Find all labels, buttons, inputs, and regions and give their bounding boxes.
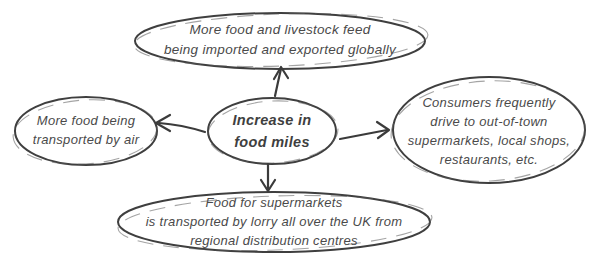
node-text-line: supermarkets, local shops, bbox=[408, 131, 570, 150]
node-text-line: transported by air bbox=[33, 130, 140, 149]
arrow-center-to-right bbox=[340, 122, 389, 139]
node-text-line: Increase in bbox=[232, 109, 311, 131]
node-text-line: More food being bbox=[33, 111, 140, 130]
left-node: More food being transported by air bbox=[33, 111, 140, 149]
node-text-line: Consumers frequently bbox=[408, 93, 570, 112]
node-text-line: drive to out-of-town bbox=[408, 112, 570, 131]
top-node: More food and livestock feed being impor… bbox=[164, 20, 396, 60]
node-text-line: being imported and exported globally bbox=[164, 40, 396, 60]
node-text-line: restaurants, etc. bbox=[408, 150, 570, 169]
arrow-center-to-bottom bbox=[261, 164, 275, 191]
center-node: Increase in food miles bbox=[232, 109, 311, 153]
right-node: Consumers frequently drive to out-of-tow… bbox=[408, 93, 570, 169]
food-miles-concept-map: More food and livestock feed being impor… bbox=[0, 0, 591, 265]
node-text-line: Food for supermarkets bbox=[146, 193, 403, 212]
node-text-line: food miles bbox=[232, 131, 311, 153]
arrow-center-to-top bbox=[274, 67, 288, 96]
bottom-node: Food for supermarkets is transported by … bbox=[146, 193, 403, 250]
node-text-line: is transported by lorry all over the UK … bbox=[146, 212, 403, 231]
arrow-center-to-left bbox=[156, 115, 205, 132]
node-text-line: regional distribution centres bbox=[146, 231, 403, 250]
node-text-line: More food and livestock feed bbox=[164, 20, 396, 40]
